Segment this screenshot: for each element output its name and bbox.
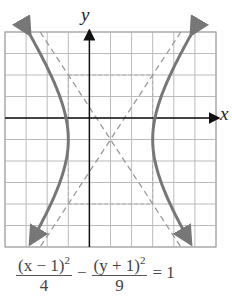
axes xyxy=(5,30,219,247)
hyperbola-graph xyxy=(0,0,232,250)
x-axis-label: x xyxy=(220,103,228,125)
equation: (x − 1)2 4 − (y + 1)2 9 = 1 xyxy=(16,251,180,295)
fraction-2: (y + 1)2 9 xyxy=(92,251,148,295)
equals: = 1 xyxy=(152,263,174,283)
minus-sign: − xyxy=(77,263,87,283)
grid xyxy=(5,32,216,247)
fraction-1: (x − 1)2 4 xyxy=(16,251,72,295)
y-axis-label: y xyxy=(81,4,89,26)
